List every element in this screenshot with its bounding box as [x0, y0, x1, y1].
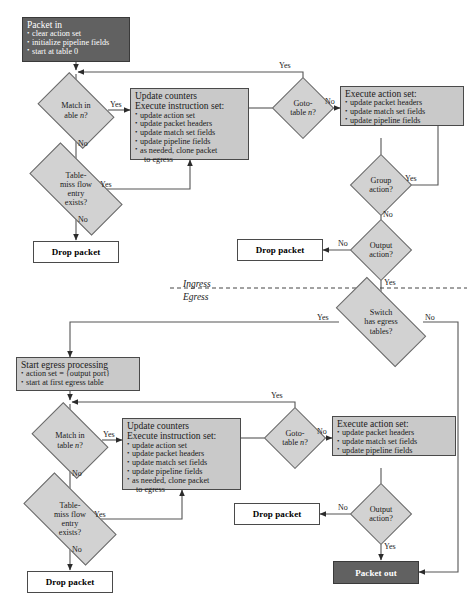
- edge-label-egress-goto-yes: Yes: [271, 392, 283, 400]
- decision-line-1: Switch: [370, 308, 393, 317]
- decision-line-1: Output: [370, 241, 393, 250]
- decision-text: Match in table n?: [38, 418, 102, 463]
- egress-update-counters-box: Update counters Execute instruction set:…: [122, 418, 241, 490]
- edge-label-group-no: No: [383, 211, 393, 219]
- decision-line-4: exists?: [59, 528, 81, 537]
- egress-output-action-decision: Output action?: [359, 492, 403, 536]
- decision-line-1: Group: [371, 176, 392, 185]
- decision-line-2: able n?: [64, 111, 87, 120]
- decision-text: Goto- table n?: [281, 86, 325, 130]
- decision-line-2: table n?: [290, 108, 316, 117]
- edge-label-egress-tablemiss-no: No: [72, 546, 82, 554]
- edge-label-goto-yes: Yes: [279, 62, 291, 70]
- decision-line-1: Output: [370, 505, 393, 514]
- egress-output-drop-packet-box: Drop packet: [234, 503, 320, 525]
- decision-line-2: action?: [369, 250, 393, 259]
- decision-line-2: action?: [369, 514, 393, 523]
- egress-match-decision: Match in table n?: [38, 418, 102, 463]
- decision-line-1: Table-: [60, 501, 81, 510]
- decision-line-2: table n?: [282, 438, 308, 447]
- execute-action-set-list: update packet headers update match set f…: [337, 429, 452, 456]
- packet-out-box: Packet out: [333, 561, 419, 584]
- decision-text: Switch has egress tables?: [339, 300, 423, 344]
- decision-text: Match in able n?: [44, 88, 108, 133]
- edge-label-egress-output-no: No: [338, 504, 348, 512]
- edge-label-switch-yes: Yes: [317, 314, 329, 322]
- update-counters-title: Update counters: [135, 91, 245, 101]
- ingress-table-miss-decision: Table- miss flow entry exists?: [32, 167, 120, 211]
- switch-has-egress-tables-decision: Switch has egress tables?: [339, 300, 423, 344]
- update-counters-list: update action set update packet headers …: [127, 442, 237, 495]
- flowchart-canvas: Packet in clear action set initialize pi…: [0, 0, 475, 608]
- list-item: update pipeline fields: [345, 117, 460, 126]
- edge-label-group-yes: Yes: [405, 175, 417, 183]
- egress-execute-action-set-box: Execute action set: update packet header…: [332, 416, 456, 456]
- list-item: to egress: [127, 486, 237, 495]
- edge-label-output-no: No: [338, 240, 348, 248]
- decision-text: Table- miss flow entry exists?: [26, 497, 114, 541]
- decision-line-1: Match in: [61, 101, 90, 110]
- decision-text: Group action?: [359, 163, 403, 207]
- decision-text: Output action?: [359, 492, 403, 536]
- edge-label-match-yes: Yes: [110, 101, 122, 109]
- execute-action-set-list: update packet headers update match set f…: [345, 99, 460, 126]
- start-egress-list: action set = {output port} start at firs…: [21, 370, 136, 388]
- ingress-goto-table-decision: Goto- table n?: [281, 86, 325, 130]
- edge-label-tablemiss-yes: Yes: [100, 181, 112, 189]
- start-egress-processing-box: Start egress processing action set = {ou…: [16, 357, 140, 391]
- list-item: update pipeline fields: [337, 447, 452, 456]
- edge-label-egress-tablemiss-yes: Yes: [94, 511, 106, 519]
- decision-line-3: tables?: [370, 327, 393, 336]
- phase-label-egress: Egress: [183, 292, 209, 302]
- decision-line-2: table n?: [57, 441, 83, 450]
- decision-line-3: entry: [68, 189, 85, 198]
- edge-label-egress-match-yes: Yes: [103, 431, 115, 439]
- list-item: start at first egress table: [21, 379, 136, 388]
- ingress-output-drop-packet-box: Drop packet: [237, 239, 323, 261]
- packet-in-list: clear action set initialize pipeline fie…: [27, 30, 126, 57]
- ingress-drop-packet-box: Drop packet: [33, 241, 119, 263]
- decision-line-2: miss flow: [54, 510, 86, 519]
- ingress-execute-action-set-box: Execute action set: update packet header…: [340, 86, 464, 126]
- decision-line-2: has egress: [364, 317, 397, 326]
- list-item: start at table 0: [27, 48, 126, 57]
- decision-line-4: exists?: [65, 198, 87, 207]
- packet-in-box: Packet in clear action set initialize pi…: [22, 17, 130, 62]
- edge-label-switch-no: No: [425, 314, 435, 322]
- decision-line-1: Goto-: [293, 99, 312, 108]
- decision-text: Table- miss flow entry exists?: [32, 167, 120, 211]
- decision-line-3: entry: [62, 519, 79, 528]
- ingress-match-decision: Match in able n?: [44, 88, 108, 133]
- edge-label-output-yes: Yes: [384, 279, 396, 287]
- edge-label-tablemiss-no: No: [78, 216, 88, 224]
- ingress-output-action-decision: Output action?: [359, 228, 403, 272]
- egress-drop-packet-box: Drop packet: [27, 571, 113, 593]
- update-counters-list: update action set update packet headers …: [135, 112, 245, 165]
- edge-label-egress-match-no: No: [72, 470, 82, 478]
- edge-label-goto-no: No: [325, 98, 335, 106]
- decision-text: Goto- table n?: [273, 416, 317, 460]
- decision-line-2: miss flow: [60, 180, 92, 189]
- edge-label-egress-goto-no: No: [317, 428, 327, 436]
- execute-instruction-set-title: Execute instruction set:: [135, 101, 245, 111]
- update-counters-title: Update counters: [127, 421, 237, 431]
- decision-line-1: Goto-: [285, 429, 304, 438]
- decision-text: Output action?: [359, 228, 403, 272]
- decision-line-1: Match in: [55, 431, 84, 440]
- egress-goto-table-decision: Goto- table n?: [273, 416, 317, 460]
- egress-table-miss-decision: Table- miss flow entry exists?: [26, 497, 114, 541]
- decision-line-1: Table-: [66, 171, 87, 180]
- phase-label-ingress: Ingress: [183, 279, 211, 289]
- edge-label-egress-output-yes: Yes: [384, 543, 396, 551]
- ingress-group-action-decision: Group action?: [359, 163, 403, 207]
- ingress-update-counters-box: Update counters Execute instruction set:…: [130, 88, 249, 160]
- decision-line-2: action?: [369, 185, 393, 194]
- edge-label-match-no: No: [78, 140, 88, 148]
- execute-instruction-set-title: Execute instruction set:: [127, 431, 237, 441]
- list-item: to egress: [135, 156, 245, 165]
